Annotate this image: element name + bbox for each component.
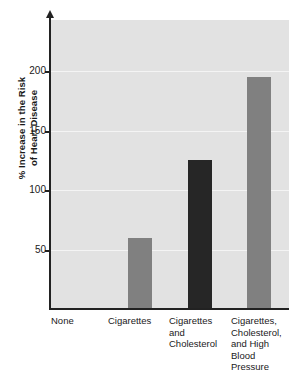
y-axis-tick-label: 150	[6, 126, 46, 136]
y-axis-line	[49, 16, 51, 310]
y-axis-tick-label: 50	[6, 245, 46, 255]
bar	[247, 77, 271, 309]
y-axis-tick-label: 200	[6, 66, 46, 76]
x-axis-category-label: None	[51, 315, 74, 327]
x-axis-category-label: Cigarettes and Cholesterol	[169, 315, 217, 350]
y-axis-tick-label: 100	[6, 185, 46, 195]
bar	[128, 238, 152, 309]
x-axis-category-label: Cigarettes	[108, 315, 151, 327]
x-axis-line	[49, 308, 289, 310]
x-axis-category-labels: NoneCigarettesCigarettes and Cholesterol…	[51, 315, 301, 384]
bar	[188, 160, 212, 309]
x-axis-category-label: Cigarettes, Cholesterol, and High Blood …	[231, 315, 282, 373]
plot-area	[51, 20, 289, 309]
bar-chart-figure: % Increase in the Risk of Heart Disease …	[0, 0, 301, 384]
gridline	[51, 71, 289, 72]
